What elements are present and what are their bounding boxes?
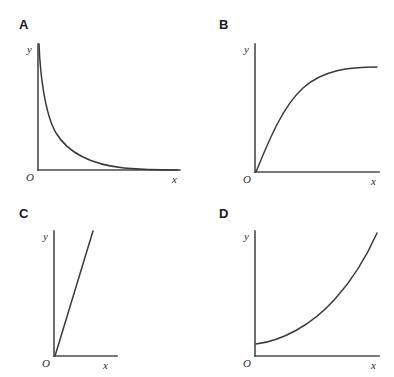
curve-c (55, 231, 93, 356)
x-axis-label-d: x (371, 360, 376, 371)
panel-c-plot (0, 189, 197, 377)
panel-d: D y x O (197, 189, 394, 377)
panel-b: B y x O (197, 0, 394, 188)
panel-a: A y x O (0, 0, 197, 188)
panel-c: C y x O (0, 189, 197, 377)
origin-label-a: O (26, 172, 34, 183)
x-axis-label-c: x (103, 360, 108, 371)
y-axis-label-c: y (43, 231, 48, 242)
figure-container: A y x O B y x O C y x O D (0, 0, 394, 377)
y-axis-label-d: y (244, 231, 249, 242)
panel-d-plot (197, 189, 394, 377)
y-axis-label-a: y (27, 44, 32, 55)
panel-a-plot (0, 0, 197, 188)
curve-b (256, 67, 377, 172)
origin-label-c: O (42, 358, 50, 369)
curve-a (39, 44, 178, 170)
panel-b-plot (197, 0, 394, 188)
x-axis-label-a: x (172, 174, 177, 185)
y-axis-label-b: y (244, 44, 249, 55)
origin-label-d: O (243, 358, 251, 369)
curve-d (256, 233, 377, 344)
origin-label-b: O (243, 174, 251, 185)
x-axis-label-b: x (371, 176, 376, 187)
